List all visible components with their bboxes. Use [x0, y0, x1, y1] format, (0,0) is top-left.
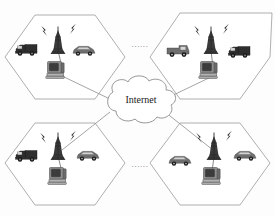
base-station-computer[interactable]: [48, 168, 67, 185]
base-station-computer[interactable]: [202, 168, 221, 185]
ellipsis-bottom: ......: [131, 159, 148, 169]
diagram-canvas: Internet ...... ......: [0, 0, 275, 216]
internet-cloud-label: Internet: [125, 94, 156, 105]
base-station-computer[interactable]: [199, 62, 218, 79]
cell-hexagon-bottom-left[interactable]: [5, 123, 125, 205]
network-diagram: Internet ...... ......: [0, 0, 275, 216]
cell-hexagon-bottom-right[interactable]: [150, 123, 270, 205]
base-station-computer[interactable]: [46, 62, 65, 79]
cell-hexagon-top-left[interactable]: [5, 15, 125, 99]
ellipsis-top: ......: [131, 39, 148, 49]
cell-hexagon-top-right[interactable]: [150, 13, 272, 99]
